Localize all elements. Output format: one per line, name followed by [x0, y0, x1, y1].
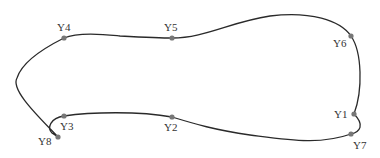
curve-diagram: Y1Y2Y3Y4Y5Y6Y7Y8	[0, 0, 380, 158]
point-y7	[348, 131, 353, 136]
point-y3	[61, 113, 66, 118]
point-label-y8: Y8	[38, 135, 52, 147]
point-label-y5: Y5	[164, 21, 178, 33]
point-label-y4: Y4	[57, 21, 71, 33]
point-y5	[169, 35, 174, 40]
point-y2	[169, 114, 174, 119]
point-y6	[348, 33, 353, 38]
point-label-y1: Y1	[334, 108, 347, 120]
point-y8	[55, 134, 60, 139]
point-y4	[61, 35, 66, 40]
point-label-y7: Y7	[353, 139, 367, 151]
point-label-y6: Y6	[333, 37, 347, 49]
point-label-y2: Y2	[164, 121, 177, 133]
point-label-y3: Y3	[60, 120, 74, 132]
point-y1	[351, 111, 356, 116]
